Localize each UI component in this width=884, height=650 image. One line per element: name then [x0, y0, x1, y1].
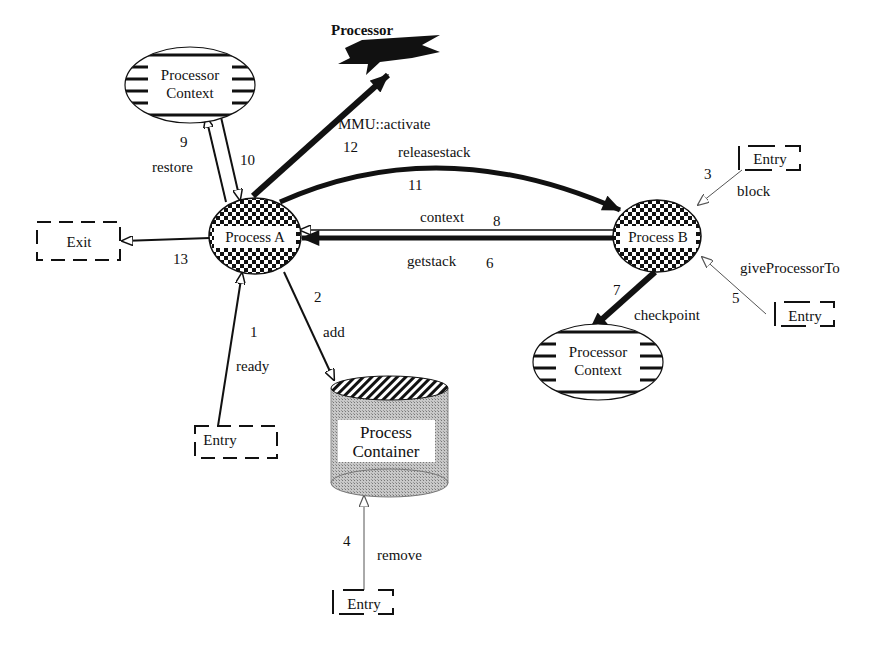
processor-icon — [338, 35, 440, 75]
entry-give-node[interactable]: Entry — [775, 302, 834, 326]
process-container-line1: Process — [360, 423, 412, 442]
step-13: 13 — [173, 251, 188, 267]
processor-label: Processor — [331, 22, 394, 38]
label-remove: remove — [377, 547, 422, 563]
step-3: 3 — [704, 166, 712, 182]
entry-remove-label: Entry — [347, 596, 381, 612]
entry-give-label: Entry — [788, 308, 822, 324]
process-flow-diagram: Processor Processor Context Process A Pr… — [0, 0, 884, 650]
exit-node[interactable]: Exit — [37, 222, 120, 260]
processor-node[interactable]: Processor — [331, 22, 440, 75]
label-add: add — [323, 324, 345, 340]
entry-block-label: Entry — [753, 151, 787, 167]
label-ready: ready — [236, 358, 270, 374]
processor-context-bottom-node[interactable]: Processor Context — [528, 324, 668, 400]
label-giveprocessorto: giveProcessorTo — [740, 260, 840, 276]
step-12: 12 — [343, 139, 358, 155]
process-container-node[interactable]: Process Container — [331, 376, 448, 497]
step-8: 8 — [493, 213, 501, 229]
processor-context-top-line2: Context — [166, 85, 214, 101]
processor-context-top-node[interactable]: Processor Context — [120, 47, 260, 123]
step-6: 6 — [486, 255, 494, 271]
process-container-line2: Container — [352, 442, 419, 461]
process-a-label: Process A — [225, 229, 285, 245]
step-7: 7 — [613, 282, 621, 298]
entry-block-node[interactable]: Entry — [739, 146, 800, 170]
entry-ready-label: Entry — [203, 432, 237, 448]
processor-context-top-line1: Processor — [161, 67, 219, 83]
step-1: 1 — [250, 324, 258, 340]
label-checkpoint: checkpoint — [634, 307, 701, 323]
step-4: 4 — [343, 533, 351, 549]
processor-context-bottom-line1: Processor — [569, 344, 627, 360]
process-b-label: Process B — [628, 229, 688, 245]
processor-context-bottom-line2: Context — [574, 362, 622, 378]
step-2: 2 — [314, 289, 322, 305]
step-5: 5 — [732, 290, 740, 306]
label-block: block — [737, 183, 771, 199]
step-10: 10 — [240, 152, 255, 168]
edge-exit — [122, 238, 210, 241]
edge-releasestack — [280, 168, 620, 210]
edge-ready — [218, 273, 242, 426]
step-9: 9 — [180, 134, 188, 150]
entry-remove-node[interactable]: Entry — [333, 590, 393, 614]
label-activate: MMU::activate — [338, 116, 431, 132]
label-context: context — [420, 209, 465, 225]
entry-ready-node[interactable]: Entry — [195, 426, 277, 458]
process-b-node[interactable]: Process B — [613, 200, 701, 272]
label-restore: restore — [152, 159, 193, 175]
edge-activate — [253, 75, 388, 196]
label-getstack: getstack — [407, 253, 457, 269]
label-releasestack: releasestack — [398, 144, 471, 160]
edge-ten — [221, 117, 240, 200]
step-11: 11 — [408, 177, 422, 193]
process-a-node[interactable]: Process A — [209, 198, 301, 274]
exit-label: Exit — [67, 234, 93, 250]
